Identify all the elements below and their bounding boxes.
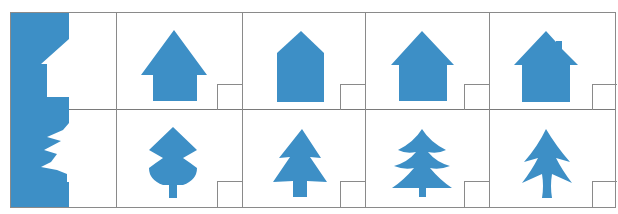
option-cell-house-3[interactable]	[366, 13, 490, 110]
option-cell-tree-3[interactable]	[366, 110, 490, 207]
answer-box[interactable]	[592, 181, 617, 207]
option-cell-tree-2[interactable]	[243, 110, 366, 207]
answer-box[interactable]	[464, 181, 489, 207]
answer-box[interactable]	[464, 84, 489, 110]
option-cell-tree-1[interactable]	[117, 110, 243, 207]
sample-cell-tree	[11, 110, 117, 207]
option-cell-house-2[interactable]	[243, 13, 366, 110]
sample-cell-house	[11, 13, 117, 110]
answer-box[interactable]	[592, 84, 617, 110]
half-house-silhouette-icon	[11, 13, 117, 110]
matching-grid	[10, 12, 616, 208]
answer-box[interactable]	[217, 181, 242, 207]
answer-box[interactable]	[217, 84, 242, 110]
answer-box[interactable]	[340, 181, 365, 207]
option-cell-tree-4[interactable]	[490, 110, 617, 207]
answer-box[interactable]	[340, 84, 365, 110]
half-tree-silhouette-icon	[11, 110, 117, 207]
option-cell-house-1[interactable]	[117, 13, 243, 110]
option-cell-house-4[interactable]	[490, 13, 617, 110]
